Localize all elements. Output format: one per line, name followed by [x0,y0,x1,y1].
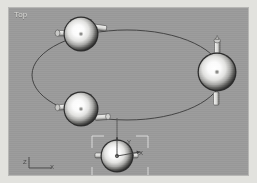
object-sphere-right[interactable] [198,36,237,106]
stub-bottom [214,92,220,105]
viewport-label: Top [14,10,28,20]
tripod-elbow [29,160,49,168]
bracket-corner-br [136,167,148,176]
bracket-corner-tl [92,136,104,148]
object-sphere-middle-left[interactable] [55,92,110,127]
gizmo-label-y: Y [127,139,131,145]
stub-top [214,36,220,54]
tripod-label-x: X [50,164,54,170]
screenshot-root: Top Z X X Y [0,0,257,183]
object-sphere-top[interactable] [55,17,107,52]
world-axis-tripod [29,157,52,168]
bracket-corner-tr [136,136,148,148]
bracket-corner-bl [92,167,104,176]
viewport-top[interactable]: Top Z X X Y [8,7,249,176]
sphere-pivot [80,108,82,110]
object-sphere-selected[interactable] [95,140,138,173]
gizmo-label-x: X [139,150,143,156]
viewport-scene[interactable] [9,8,249,176]
tripod-label-z: Z [23,159,27,165]
sphere-pivot [216,71,218,73]
sphere-pivot [80,33,82,35]
gizmo-arrow-y [115,137,118,141]
